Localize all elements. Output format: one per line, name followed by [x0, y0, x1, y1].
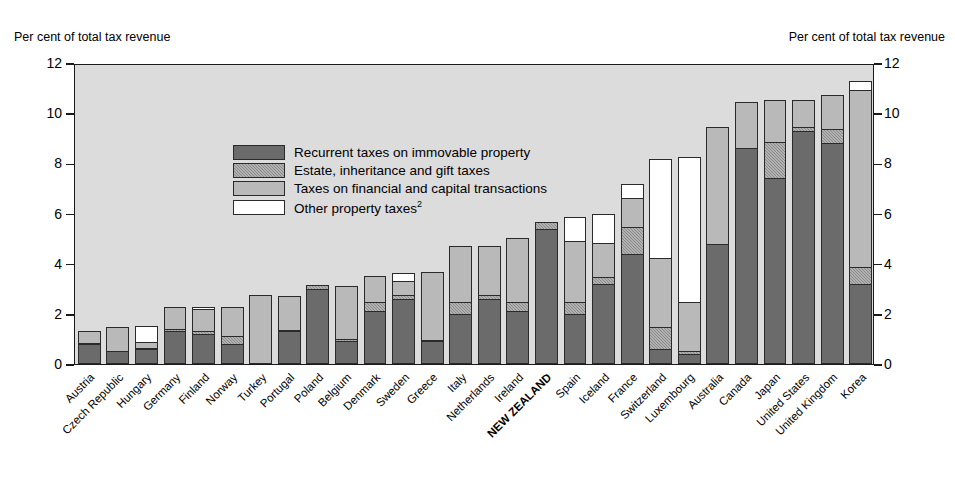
bar-segment-other [678, 157, 701, 304]
bar-luxembourg[interactable] [678, 153, 701, 364]
bar-segment-recurrent [849, 284, 872, 364]
bar-segment-financial [478, 246, 501, 296]
bar-segment-financial [735, 102, 758, 150]
y-label-left-8: 8 [22, 156, 62, 170]
bar-segment-other [649, 159, 672, 259]
bar-segment-recurrent [335, 341, 358, 364]
bar-segment-recurrent [421, 341, 444, 364]
bar-segment-financial [278, 296, 301, 331]
bar-segment-estate [649, 327, 672, 350]
y-label-right-2: 2 [884, 307, 924, 321]
bar-segment-recurrent [478, 299, 501, 364]
y-label-left-2: 2 [22, 307, 62, 321]
bar-united-kingdom[interactable] [821, 93, 844, 364]
y-tick-right-10 [874, 113, 882, 115]
y-axis-caption-left: Per cent of total tax revenue [14, 30, 170, 44]
legend-swatch-financial [233, 181, 285, 196]
y-tick-left-2 [66, 314, 74, 316]
y-tick-right-12 [874, 63, 882, 65]
y-tick-right-6 [874, 214, 882, 216]
bar-segment-recurrent [135, 349, 158, 364]
bar-denmark[interactable] [364, 274, 387, 364]
x-label-japan: Japan [633, 371, 783, 499]
bar-norway[interactable] [221, 305, 244, 364]
bar-japan[interactable] [764, 98, 787, 364]
bar-czech-republic[interactable] [106, 325, 129, 364]
tax-revenue-stacked-bar-chart: Per cent of total tax revenue Per cent o… [0, 0, 955, 499]
x-label-switzerland: Switzerland [518, 371, 668, 499]
bar-germany[interactable] [164, 305, 187, 364]
legend-item-recurrent: Recurrent taxes on immovable property [233, 145, 547, 160]
plot-area: Recurrent taxes on immovable propertyEst… [74, 64, 874, 365]
bar-segment-recurrent [221, 344, 244, 364]
x-label-czech-republic: Czech Republic [0, 371, 125, 499]
bar-ireland[interactable] [506, 236, 529, 364]
bar-turkey[interactable] [249, 295, 272, 364]
bar-australia[interactable] [706, 126, 729, 364]
x-label-italy: Italy [318, 371, 468, 499]
bar-france[interactable] [621, 181, 644, 364]
y-tick-left-8 [66, 164, 74, 166]
bar-segment-recurrent [106, 351, 129, 364]
bar-segment-estate [821, 129, 844, 144]
x-label-france: France [490, 371, 640, 499]
bar-austria[interactable] [78, 329, 101, 364]
bar-finland[interactable] [192, 304, 215, 364]
y-label-right-6: 6 [884, 207, 924, 221]
bar-segment-financial [621, 198, 644, 228]
legend-label-recurrent: Recurrent taxes on immovable property [294, 145, 530, 160]
x-label-hungary: Hungary [4, 371, 154, 499]
bar-switzerland[interactable] [649, 156, 672, 364]
bar-iceland[interactable] [592, 211, 615, 364]
y-axis-caption-right: Per cent of total tax revenue [789, 30, 945, 44]
x-label-canada: Canada [604, 371, 754, 499]
bar-segment-financial [649, 258, 672, 328]
bar-greece[interactable] [421, 270, 444, 364]
bar-segment-recurrent [706, 244, 729, 364]
y-label-left-4: 4 [22, 257, 62, 271]
bar-segment-other [564, 217, 587, 242]
bar-segment-estate [621, 227, 644, 255]
bar-segment-financial [764, 100, 787, 143]
bar-new-zealand[interactable] [535, 221, 558, 364]
bar-korea[interactable] [849, 78, 872, 364]
y-tick-left-6 [66, 214, 74, 216]
x-label-norway: Norway [90, 371, 240, 499]
bar-segment-recurrent [678, 354, 701, 364]
bar-segment-recurrent [735, 148, 758, 364]
bar-portugal[interactable] [278, 294, 301, 364]
bar-sweden[interactable] [392, 270, 415, 364]
y-tick-left-0 [66, 364, 74, 366]
bar-segment-recurrent [535, 229, 558, 364]
y-label-left-0: 0 [22, 357, 62, 371]
x-label-austria: Austria [0, 371, 97, 499]
bar-segment-financial [506, 238, 529, 303]
x-label-greece: Greece [290, 371, 440, 499]
bar-segment-recurrent [821, 143, 844, 364]
x-label-poland: Poland [175, 371, 325, 499]
bar-segment-financial [449, 246, 472, 304]
bar-united-states[interactable] [792, 98, 815, 364]
legend-label-financial: Taxes on financial and capital transacti… [294, 181, 547, 196]
y-label-left-6: 6 [22, 207, 62, 221]
bar-poland[interactable] [306, 284, 329, 364]
x-label-new-zealand: NEW ZEALAND [404, 371, 554, 499]
bar-hungary[interactable] [135, 324, 158, 364]
bar-segment-recurrent [364, 311, 387, 364]
bar-segment-financial [592, 243, 615, 278]
bar-segment-recurrent [764, 178, 787, 364]
bar-canada[interactable] [735, 101, 758, 364]
bar-netherlands[interactable] [478, 244, 501, 364]
bar-italy[interactable] [449, 244, 472, 364]
x-label-united-states: United States [661, 371, 811, 499]
x-label-netherlands: Netherlands [347, 371, 497, 499]
bar-segment-recurrent [78, 344, 101, 364]
legend-item-estate: Estate, inheritance and gift taxes [233, 163, 547, 178]
bar-segment-financial [421, 272, 444, 341]
bar-belgium[interactable] [335, 284, 358, 364]
y-tick-left-4 [66, 264, 74, 266]
bar-spain[interactable] [564, 214, 587, 365]
bar-segment-recurrent [392, 299, 415, 364]
legend-item-other: Other property taxes2 [233, 199, 547, 216]
y-tick-left-10 [66, 113, 74, 115]
